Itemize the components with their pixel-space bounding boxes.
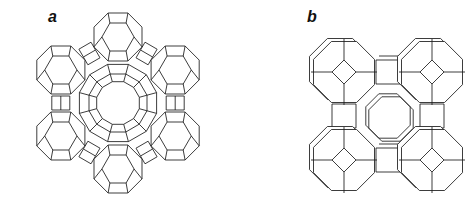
lta-framework-drawing: [238, 0, 476, 209]
panel-label-b: b: [307, 9, 317, 25]
panel-b: b: [238, 0, 476, 209]
faujasite-framework-drawing: [0, 0, 238, 209]
double-four-ring-cube: [376, 148, 400, 172]
supercage-window-ring: [97, 82, 140, 125]
double-four-ring-cube: [420, 104, 444, 128]
double-four-ring-cube: [376, 60, 400, 84]
panel-a: a: [0, 0, 238, 209]
panel-label-a: a: [48, 9, 57, 25]
double-four-ring-cube: [332, 104, 356, 128]
